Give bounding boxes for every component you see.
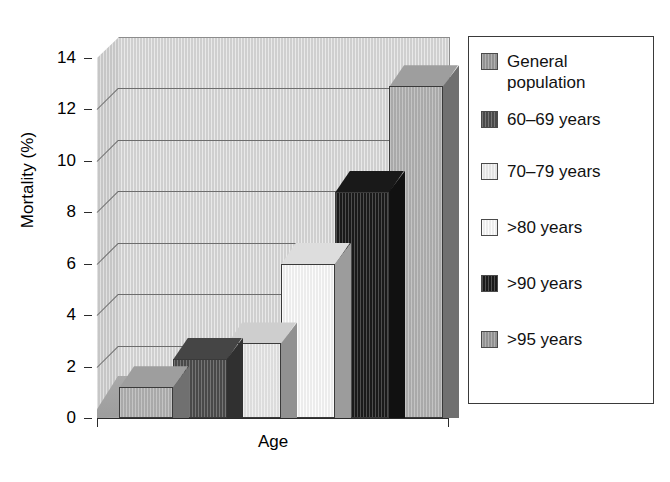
x-axis-title: Age — [97, 432, 449, 452]
legend-item-label: >80 years — [507, 217, 582, 238]
y-axis-tick-label: 4 — [42, 306, 76, 323]
legend-swatch-icon — [481, 53, 498, 70]
x-axis-tick-end — [448, 418, 449, 427]
bar-2 — [173, 37, 227, 418]
legend-item-label: 70–79 years — [507, 161, 601, 182]
legend-swatch-icon — [481, 163, 498, 180]
legend-item-6[interactable]: >95 years — [481, 329, 582, 350]
y-axis-tick — [84, 109, 92, 110]
bar-chart-figure: Mortality (%) 14121086420 Age General po… — [0, 0, 670, 482]
legend-item-4[interactable]: >80 years — [481, 217, 582, 238]
legend-box: General population60–69 years70–79 years… — [468, 36, 654, 404]
y-axis-tick — [84, 315, 92, 316]
plot-side-wall — [97, 37, 119, 418]
y-axis-title: Mortality (%) — [18, 80, 38, 280]
legend-swatch-icon — [481, 219, 498, 236]
y-axis-tick — [84, 418, 92, 419]
legend-swatch-icon — [481, 275, 498, 292]
bar-side-face — [335, 243, 351, 418]
legend-item-3[interactable]: 70–79 years — [481, 161, 601, 182]
legend-item-1[interactable]: General population — [481, 51, 585, 93]
legend-swatch-icon — [481, 331, 498, 348]
y-axis-tick — [84, 367, 92, 368]
y-axis-tick-label: 12 — [42, 100, 76, 117]
y-axis-tick — [84, 264, 92, 265]
bar-1 — [119, 37, 173, 418]
legend-item-label: 60–69 years — [507, 109, 601, 130]
y-axis-tick-label: 0 — [42, 409, 76, 426]
y-axis-tick — [84, 161, 92, 162]
legend-item-label: >90 years — [507, 273, 582, 294]
legend-item-5[interactable]: >90 years — [481, 273, 582, 294]
x-axis-line — [97, 418, 449, 419]
y-axis-tick-label: 6 — [42, 255, 76, 272]
y-axis-tick-label: 14 — [42, 49, 76, 66]
plot-area — [97, 37, 449, 418]
y-axis-tick-label: 8 — [42, 203, 76, 220]
bar-side-face — [389, 171, 405, 418]
legend-swatch-icon — [481, 111, 498, 128]
bar-front-face — [119, 387, 173, 418]
y-axis-tick — [84, 58, 92, 59]
y-axis-tick-label: 10 — [42, 152, 76, 169]
y-axis-tick — [84, 212, 92, 213]
legend-item-label: >95 years — [507, 329, 582, 350]
legend-item-2[interactable]: 60–69 years — [481, 109, 601, 130]
y-axis-tick-label: 2 — [42, 358, 76, 375]
bar-side-face — [443, 65, 459, 418]
legend-item-label: General population — [507, 51, 585, 93]
x-axis-tick-start — [97, 418, 98, 427]
